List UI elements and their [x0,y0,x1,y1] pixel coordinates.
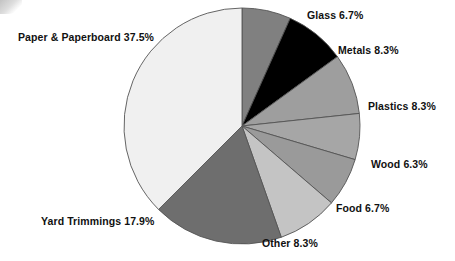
chart-page: Paper & Paperboard 37.5% Glass 6.7% Meta… [0,0,455,261]
pie-slice-group [124,8,360,244]
slice-label-yard-trimmings: Yard Trimmings 17.9% [41,216,154,227]
slice-label-metals: Metals 8.3% [338,45,399,56]
slice-label-wood: Wood 6.3% [371,159,428,170]
slice-label-paper: Paper & Paperboard 37.5% [18,32,154,43]
slice-label-glass: Glass 6.7% [307,10,363,21]
slice-label-other: Other 8.3% [262,238,318,249]
slice-label-plastics: Plastics 8.3% [368,101,436,112]
slice-label-food: Food 6.7% [336,203,389,214]
